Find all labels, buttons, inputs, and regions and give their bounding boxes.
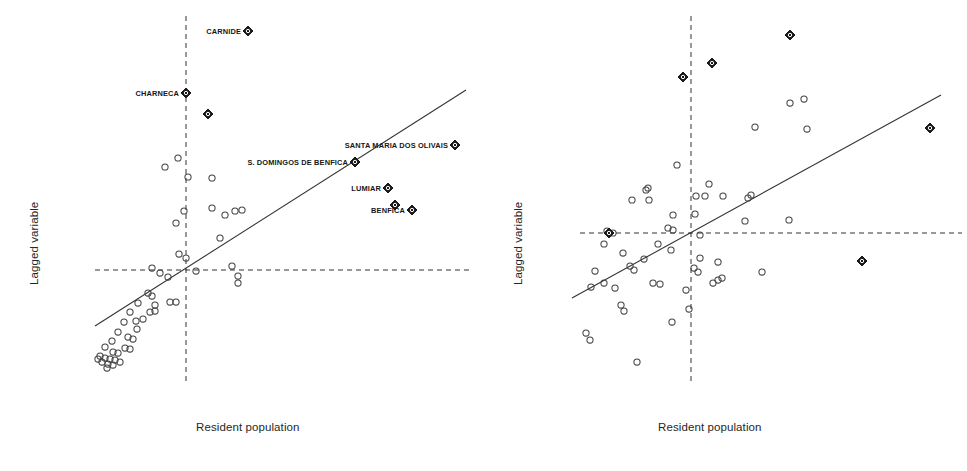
data-points-open [583, 96, 810, 365]
data-point [176, 251, 182, 257]
data-point [618, 302, 624, 308]
highlighted-data-point [181, 88, 191, 98]
data-point [162, 164, 168, 170]
data-point [583, 330, 589, 336]
data-point [229, 263, 235, 269]
point-label-charneca: CHARNECA [136, 89, 180, 98]
data-point [193, 268, 199, 274]
data-point [801, 96, 807, 102]
data-point [620, 250, 626, 256]
data-point [134, 326, 140, 332]
data-point [683, 287, 689, 293]
data-point [135, 300, 141, 306]
highlighted-data-point [678, 72, 688, 82]
data-point [587, 337, 593, 343]
data-point [209, 205, 215, 211]
data-point [634, 359, 640, 365]
data-point [752, 124, 758, 130]
data-point [217, 235, 223, 241]
data-point [692, 211, 698, 217]
highlighted-data-point [857, 256, 867, 266]
point-label-s-domingos-de-benfica: S. DOMINGOS DE BENFICA [247, 158, 348, 167]
data-point [222, 212, 228, 218]
data-point [786, 217, 792, 223]
highlighted-data-point [383, 183, 393, 193]
data-point [655, 241, 661, 247]
data-point [235, 280, 241, 286]
data-point [720, 193, 726, 199]
point-label-benfica: BENFICA [371, 206, 405, 215]
highlighted-data-point [785, 30, 795, 40]
data-point [209, 175, 215, 181]
data-point [706, 181, 712, 187]
data-point [152, 302, 158, 308]
data-point [140, 316, 146, 322]
data-point [173, 299, 179, 305]
highlighted-data-point [243, 26, 253, 36]
data-point [650, 280, 656, 286]
right-x-axis-label: Resident population [658, 421, 762, 433]
data-point [185, 174, 191, 180]
data-point [742, 218, 748, 224]
data-point [697, 255, 703, 261]
data-point [702, 193, 708, 199]
data-point [173, 220, 179, 226]
left-plot-canvas [0, 0, 484, 471]
point-label-lumiar: LUMIAR [351, 184, 381, 193]
data-point [787, 100, 793, 106]
data-point [592, 268, 598, 274]
point-label-carnide: CARNIDE [206, 27, 241, 36]
data-point [759, 269, 765, 275]
highlighted-data-point [450, 140, 460, 150]
data-point [629, 197, 635, 203]
highlighted-data-point [407, 205, 417, 215]
data-point [804, 126, 810, 132]
highlighted-data-point [925, 123, 935, 133]
highlighted-data-point [707, 58, 717, 68]
left-x-axis-label: Resident population [196, 421, 300, 433]
figure-scatter-pair: Lagged variable Resident population CARN… [0, 0, 967, 471]
data-point [612, 285, 618, 291]
data-point [715, 259, 721, 265]
data-point [621, 308, 627, 314]
data-point [668, 247, 674, 253]
left-scatter-panel: Lagged variable Resident population CARN… [0, 0, 484, 471]
data-point [646, 197, 652, 203]
data-point [127, 309, 133, 315]
data-point [167, 299, 173, 305]
data-point [239, 207, 245, 213]
data-point [693, 193, 699, 199]
highlighted-data-point [203, 109, 213, 119]
right-scatter-panel: Lagged variable Resident population [484, 0, 967, 471]
data-point [695, 269, 701, 275]
right-y-axis-label: Lagged variable [512, 202, 524, 285]
data-point [674, 162, 680, 168]
data-point [121, 319, 127, 325]
data-point [669, 319, 675, 325]
data-point [631, 267, 637, 273]
data-point [235, 273, 241, 279]
left-y-axis-label: Lagged variable [28, 202, 40, 285]
data-points-open [95, 155, 245, 371]
data-point [115, 329, 121, 335]
data-point [601, 241, 607, 247]
data-point [232, 208, 238, 214]
data-point [104, 365, 110, 371]
data-point [102, 344, 108, 350]
data-points-highlighted [604, 30, 935, 266]
data-point [109, 338, 115, 344]
data-point [670, 212, 676, 218]
data-point [657, 281, 663, 287]
data-point [175, 155, 181, 161]
right-plot-canvas [484, 0, 967, 471]
data-point [133, 318, 139, 324]
point-label-santa-maria-dos-olivais: SANTA MARIA DOS OLIVAIS [345, 141, 448, 150]
data-point [181, 208, 187, 214]
data-point [157, 270, 163, 276]
